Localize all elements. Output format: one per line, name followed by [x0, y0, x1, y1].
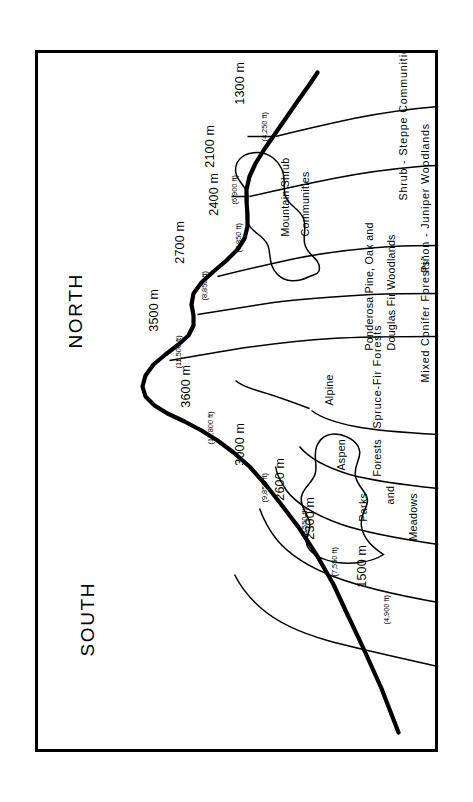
elevation-value-1300m: 1300 m [232, 61, 246, 104]
elevation-value-2100m: 2100 m [202, 124, 216, 167]
zone-boundary-north-spruce-fir [169, 336, 438, 360]
zone-label-meadows: Meadows [407, 493, 418, 540]
elevation-value-3600m: 3600 m [178, 364, 192, 407]
zone-boundary-alpine [235, 380, 309, 408]
zone-label-and: and [384, 485, 395, 504]
zone-label-alpine: Alpine [323, 374, 334, 405]
elevation-feet-1300m: (4,250 ft) [260, 61, 268, 141]
zone-label-aspen-forests: Forests [371, 439, 382, 476]
zone-label-mountain-shrub-line1: Mountain Shrub [279, 157, 290, 236]
zone-boundary-north-pinon [249, 165, 438, 196]
diagram-canvas: SOUTH NORTH 1500 m (4,900 ft) 2300 m (7,… [41, 56, 438, 752]
elevation-feet-1500m: (4,900 ft) [382, 544, 390, 624]
elevation-feet-3000m: (9,850 ft) [260, 422, 268, 502]
elevation-feet-2600m: (8,550 ft) [300, 457, 308, 537]
zone-label-mixed-conifer-forests: Mixed Conifer Forests [419, 259, 430, 382]
elevation-feet-3600m: (11,800 ft) [206, 364, 214, 444]
zone-label-ponderosa-line1: Ponderosa Pine, Oak and [363, 222, 374, 350]
zone-label-mountain-shrub-line2: Communities [299, 171, 310, 236]
rotated-diagram-wrapper: SOUTH NORTH 1500 m (4,900 ft) 2300 m (7,… [38, 53, 441, 755]
figure-page: SOUTH NORTH 1500 m (4,900 ft) 2300 m (7,… [0, 0, 473, 802]
zone-label-pinon-juniper-woodlands: Piñon - Juniper Woodlands [419, 122, 430, 272]
figure-frame: SOUTH NORTH 1500 m (4,900 ft) 2300 m (7,… [35, 50, 438, 752]
compass-label-south: SOUTH [77, 582, 98, 657]
elevation-label-1300m: 1300 m (4,250 ft) [219, 61, 294, 141]
elevation-label-3600m: 3600 m (11,800 ft) [165, 364, 240, 444]
elevation-value-3500m: 3500 m [146, 288, 160, 331]
elevation-value-2700m: 2700 m [172, 220, 186, 263]
zone-label-ponderosa-line2: Douglas Fir Woodlands [385, 234, 396, 350]
compass-label-north: NORTH [65, 273, 86, 348]
zone-label-shrub-steppe-communities: Shrub - Steppe Communities [397, 53, 408, 200]
zone-label-parks: Parks [357, 492, 368, 521]
zone-boundary-north-shrub-steppe [275, 106, 438, 136]
zone-label-aspen: Aspen [335, 438, 346, 470]
